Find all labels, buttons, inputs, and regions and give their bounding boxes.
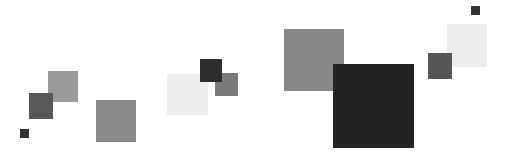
- gray-square: [29, 93, 53, 119]
- gray-square: [471, 6, 480, 15]
- gray-square: [447, 24, 487, 67]
- gray-square: [200, 59, 222, 82]
- gray-square: [20, 129, 29, 138]
- gray-square: [428, 53, 452, 79]
- gray-square: [96, 100, 136, 142]
- gray-square: [333, 64, 414, 148]
